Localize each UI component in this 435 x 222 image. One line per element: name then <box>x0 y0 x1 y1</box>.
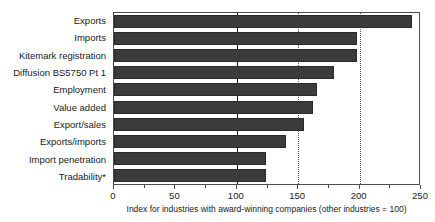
bar-row <box>114 32 419 45</box>
category-label-export-sales: Export/sales <box>54 119 110 130</box>
xtick-250 <box>420 185 421 189</box>
bar-chart: Exports Imports Kitemark registration Di… <box>0 0 435 222</box>
xtick-50 <box>174 185 175 189</box>
xtick-label-100: 100 <box>228 190 244 202</box>
x-axis-caption: Index for industries with award-winning … <box>113 204 420 215</box>
bar-import-penetration <box>114 152 266 165</box>
bar-employment <box>114 83 317 96</box>
bar-tradability <box>114 169 266 182</box>
category-label-exports-imports: Exports/imports <box>40 136 110 147</box>
xtick-label-250: 250 <box>412 190 428 202</box>
bar-row <box>114 118 419 131</box>
bar-diffusion-bs5750-pt-1 <box>114 66 334 79</box>
bar-row <box>114 152 419 165</box>
xtick-minor-75 <box>205 185 206 188</box>
xtick-label-150: 150 <box>289 190 305 202</box>
bar-row <box>114 83 419 96</box>
bar-exports <box>114 15 412 28</box>
bar-row <box>114 15 419 28</box>
category-axis: Exports Imports Kitemark registration Di… <box>0 12 110 185</box>
bar-row <box>114 101 419 114</box>
bar-value-added <box>114 101 313 114</box>
xtick-0 <box>113 185 114 189</box>
xtick-200 <box>359 185 360 189</box>
xtick-label-0: 0 <box>110 190 115 202</box>
x-axis-tick-labels: 050100150200250 <box>113 190 420 203</box>
xtick-minor-25 <box>144 185 145 188</box>
plot-area <box>113 12 420 185</box>
bar-row <box>114 169 419 182</box>
bar-row <box>114 135 419 148</box>
category-label-employment: Employment <box>53 84 110 95</box>
xtick-label-50: 50 <box>169 190 180 202</box>
xtick-150 <box>297 185 298 189</box>
bars-layer <box>114 13 419 184</box>
bar-export-sales <box>114 118 304 131</box>
bar-row <box>114 66 419 79</box>
category-label-imports: Imports <box>74 32 110 43</box>
xtick-label-200: 200 <box>351 190 367 202</box>
bar-row <box>114 49 419 62</box>
bar-exports-imports <box>114 135 286 148</box>
category-label-tradability: Tradability* <box>59 171 110 182</box>
bar-kitemark-registration <box>114 49 357 62</box>
xtick-minor-175 <box>328 185 329 188</box>
category-label-exports: Exports <box>74 15 110 26</box>
xtick-minor-125 <box>267 185 268 188</box>
bar-imports <box>114 32 357 45</box>
category-label-import-penetration: Import penetration <box>29 154 110 165</box>
xtick-minor-225 <box>389 185 390 188</box>
xtick-100 <box>236 185 237 189</box>
category-label-value-added: Value added <box>53 102 110 113</box>
category-label-kitemark-registration: Kitemark registration <box>19 50 110 61</box>
category-label-diffusion-bs5750-pt-1: Diffusion BS5750 Pt 1 <box>13 67 110 78</box>
